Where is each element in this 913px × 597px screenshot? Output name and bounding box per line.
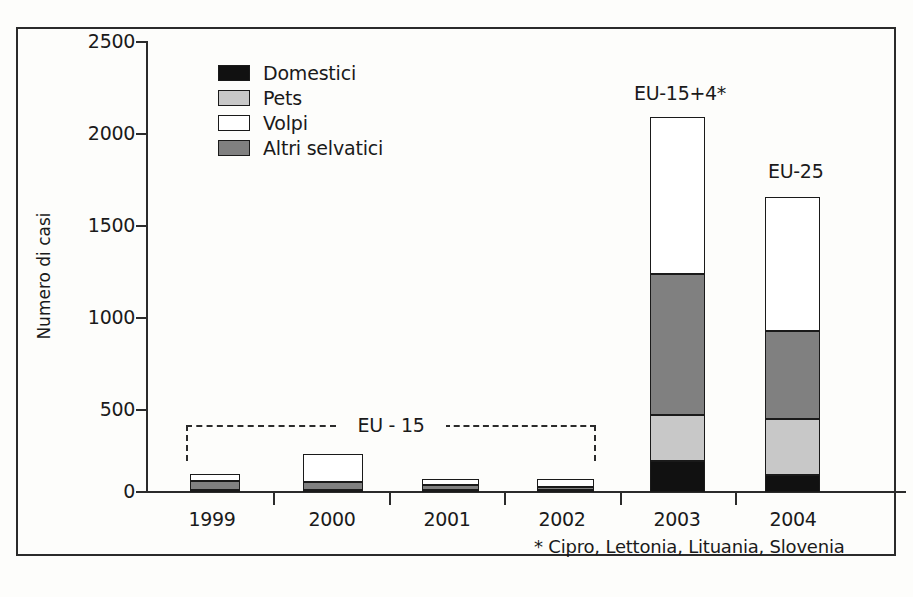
legend-swatch-altri-selvatici	[218, 140, 250, 156]
bar-segment-altri	[537, 487, 594, 491]
y-axis-title: Numero di casi	[34, 186, 54, 366]
legend-label-volpi: Volpi	[263, 112, 308, 134]
legend-item-altri-selvatici[interactable]: Altri selvatici	[218, 135, 383, 160]
bracket-left-leg	[186, 425, 188, 461]
x-label-2001: 2001	[387, 508, 507, 530]
y-tick-2000	[136, 133, 147, 135]
y-tick-0	[136, 491, 147, 493]
y-tick-1000	[136, 317, 147, 319]
bar-segment-volpi	[190, 474, 240, 481]
x-label-2003: 2003	[617, 508, 737, 530]
eu15-bracket: EU - 15	[186, 425, 596, 461]
legend-swatch-pets	[218, 90, 250, 106]
y-label-2500: 2500	[75, 32, 135, 51]
bar-2003	[650, 117, 705, 492]
bracket-label: EU - 15	[336, 414, 446, 436]
legend-label-domestici: Domestici	[263, 62, 356, 84]
y-axis-line	[146, 41, 148, 493]
bar-segment-volpi	[765, 197, 820, 331]
chart-footnote: * Cipro, Lettonia, Lituania, Slovenia	[534, 536, 845, 557]
y-tick-2500	[136, 41, 147, 43]
x-label-1999: 1999	[152, 508, 272, 530]
legend-item-pets[interactable]: Pets	[218, 85, 383, 110]
x-tick-3	[504, 492, 506, 505]
y-tick-500	[136, 409, 147, 411]
annotation-eu25: EU-25	[768, 160, 823, 182]
bar-segment-altri	[190, 481, 240, 490]
y-label-2000: 2000	[75, 124, 135, 143]
legend-label-altri-selvatici: Altri selvatici	[263, 137, 383, 159]
bar-segment-altri	[303, 482, 363, 490]
bar-segment-altri	[422, 485, 479, 490]
bar-2004	[765, 197, 820, 492]
legend-swatch-volpi	[218, 115, 250, 131]
y-tick-1500	[136, 225, 147, 227]
annotation-eu15-plus4: EU-15+4*	[634, 82, 726, 104]
y-label-0: 0	[75, 482, 135, 501]
legend-item-volpi[interactable]: Volpi	[218, 110, 383, 135]
bar-segment-volpi	[650, 117, 705, 274]
x-label-2004: 2004	[733, 508, 853, 530]
bracket-top-right	[444, 425, 596, 427]
bar-segment-domestici	[650, 461, 705, 492]
legend-swatch-domestici	[218, 65, 250, 81]
bracket-right-leg	[594, 425, 596, 461]
legend-label-pets: Pets	[263, 87, 302, 109]
chart-plot-area: Numero di casi 2500 2000 1500 1000 500 0…	[0, 0, 913, 597]
bar-segment-pets	[765, 419, 820, 475]
x-label-2002: 2002	[502, 508, 622, 530]
x-tick-5	[735, 492, 737, 505]
bar-segment-domestici	[765, 475, 820, 492]
bar-segment-altri	[765, 331, 820, 418]
x-tick-2	[389, 492, 391, 505]
chart-legend: Domestici Pets Volpi Altri selvatici	[218, 60, 383, 160]
bar-segment-pets	[650, 415, 705, 461]
bar-1999	[190, 474, 240, 492]
y-label-1000: 1000	[75, 308, 135, 327]
x-tick-4	[620, 492, 622, 505]
bar-segment-volpi	[537, 479, 594, 486]
legend-item-domestici[interactable]: Domestici	[218, 60, 383, 85]
y-label-1500: 1500	[75, 216, 135, 235]
x-label-2000: 2000	[272, 508, 392, 530]
bar-2001	[422, 479, 479, 492]
bar-2002	[537, 479, 594, 492]
x-tick-1	[273, 492, 275, 505]
y-label-500: 500	[75, 400, 135, 419]
bracket-top-left	[186, 425, 336, 427]
bar-segment-volpi	[422, 479, 479, 484]
bar-segment-altri	[650, 274, 705, 416]
